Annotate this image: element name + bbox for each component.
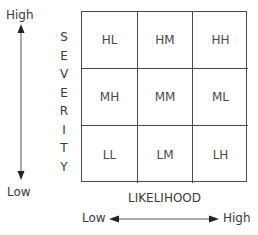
matrix-cell: HM bbox=[138, 12, 193, 69]
severity-high-label: High bbox=[6, 8, 34, 22]
severity-axis-title: S E V E R I T Y bbox=[57, 28, 71, 176]
matrix-cell: LL bbox=[82, 126, 138, 183]
matrix-cell: HL bbox=[82, 12, 138, 69]
severity-letter: I bbox=[62, 121, 66, 140]
severity-low-label: Low bbox=[7, 185, 31, 199]
matrix-cell: ML bbox=[193, 69, 248, 126]
likelihood-low-label: Low bbox=[82, 211, 106, 225]
severity-letter: E bbox=[60, 47, 68, 66]
likelihood-high-label: High bbox=[223, 211, 251, 225]
matrix-cell: MH bbox=[82, 69, 138, 126]
severity-letter: T bbox=[60, 139, 67, 158]
severity-letter: V bbox=[60, 65, 68, 84]
severity-letter: R bbox=[60, 102, 68, 121]
severity-axis-arrow-icon bbox=[14, 24, 28, 180]
matrix-cell: HH bbox=[193, 12, 248, 69]
matrix-cell: MM bbox=[138, 69, 193, 126]
matrix-cell: LH bbox=[193, 126, 248, 183]
likelihood-axis-title: LIKELIHOOD bbox=[128, 191, 201, 205]
risk-matrix: HL HM HH MH MM ML LL LM LH bbox=[81, 11, 247, 182]
severity-letter: S bbox=[60, 28, 68, 47]
severity-letter: Y bbox=[60, 158, 67, 177]
severity-letter: E bbox=[60, 84, 68, 103]
matrix-cell: LM bbox=[138, 126, 193, 183]
likelihood-axis-arrow-icon bbox=[109, 213, 219, 225]
